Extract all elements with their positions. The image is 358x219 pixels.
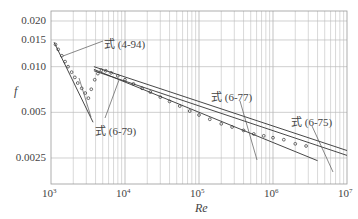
- x-axis-label: Re: [195, 201, 208, 216]
- y-tick-label: 0.010: [0, 60, 46, 72]
- data-point: [208, 118, 211, 121]
- y-axis-label: f: [14, 84, 17, 99]
- data-point: [178, 105, 181, 108]
- data-point: [96, 72, 99, 75]
- data-point: [70, 71, 73, 74]
- x-tick-label: 107: [338, 187, 353, 199]
- data-point: [87, 97, 90, 100]
- data-point: [76, 82, 79, 85]
- y-tick-label: 0.005: [0, 105, 46, 117]
- annotation-eq-6-75: 式 (6-75): [291, 113, 332, 129]
- data-point: [90, 88, 93, 91]
- annotation-eq-4-94: 式 (4-94): [104, 35, 145, 51]
- y-tick-label: 0.020: [0, 14, 46, 26]
- x-tick-label: 106: [264, 187, 279, 199]
- annotation-eq-6-79: 式 (6-79): [95, 122, 136, 138]
- series-lines: [54, 42, 347, 161]
- x-tick-label: 104: [116, 187, 131, 199]
- data-point: [64, 60, 67, 63]
- x-tick-label: 103: [42, 187, 57, 199]
- data-point: [305, 145, 308, 148]
- data-point: [282, 138, 285, 141]
- data-point: [73, 76, 76, 79]
- annotation-eq-6-77: 式 (6-77): [211, 88, 252, 104]
- x-tick-label: 105: [190, 187, 205, 199]
- annotation-leaders: [63, 41, 333, 172]
- y-tick-label: 0.0025: [0, 151, 46, 163]
- y-tick-label: 0.015: [0, 33, 46, 45]
- grid-lines: [51, 11, 347, 184]
- annotation-leader-line: [312, 126, 333, 172]
- series-line: [94, 69, 318, 160]
- annotation-leader-line: [63, 41, 103, 56]
- data-point: [262, 134, 265, 137]
